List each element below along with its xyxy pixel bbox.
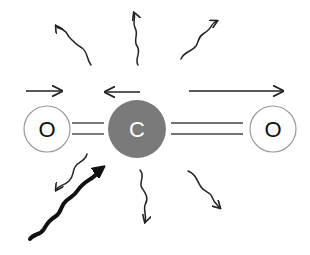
bond-right bbox=[171, 123, 243, 134]
photon-incoming-icon bbox=[30, 169, 101, 239]
photon-up-icon bbox=[134, 13, 139, 65]
photon-down-right-icon bbox=[188, 171, 220, 208]
photon-down-icon bbox=[140, 170, 147, 222]
atom-label: O bbox=[38, 117, 55, 142]
atom-oxygen-left: O bbox=[24, 106, 70, 152]
bond-left bbox=[72, 123, 104, 134]
motion-arrows bbox=[26, 91, 283, 92]
atom-label: C bbox=[129, 117, 145, 142]
photon-up-right-icon bbox=[181, 21, 217, 59]
photon-up-left-icon bbox=[56, 26, 91, 65]
atom-oxygen-right: O bbox=[250, 106, 296, 152]
atom-label: O bbox=[264, 117, 281, 142]
atom-carbon: C bbox=[108, 100, 166, 158]
co2-vibration-diagram: O C O bbox=[0, 0, 310, 255]
